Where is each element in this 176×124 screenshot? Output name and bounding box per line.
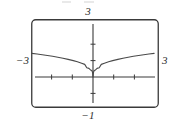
y-min-label: −1	[0, 110, 176, 121]
x-min-label: −3	[3, 55, 29, 66]
top-edge-artifact-left	[62, 1, 71, 3]
screen-border	[32, 20, 159, 108]
plot-svg	[31, 19, 159, 108]
plot-viewport	[31, 19, 159, 108]
y-max-label: 3	[0, 6, 176, 17]
graphing-calculator-figure: 3 −3 3 −1	[0, 0, 176, 124]
x-max-label: 3	[162, 55, 176, 66]
top-edge-artifact-right	[84, 1, 94, 3]
